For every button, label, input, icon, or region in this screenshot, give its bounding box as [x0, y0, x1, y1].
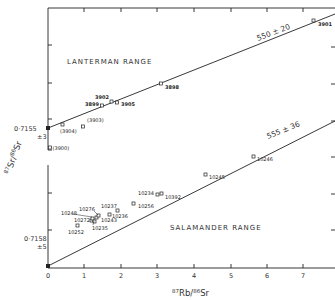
label-3901: 3901 — [318, 21, 332, 27]
point-10237 — [116, 209, 119, 212]
lanterman-intercept-marker — [46, 126, 50, 130]
salamander-intercept-value: 0·7158 — [24, 235, 47, 243]
salamander-isochron-line — [48, 121, 335, 266]
label-3899: 3899 — [85, 101, 99, 107]
label-10252: 10252 — [68, 229, 84, 235]
point-3903 — [82, 125, 85, 128]
x-tick-6: 6 — [265, 272, 269, 280]
x-tick-0: 0 — [46, 272, 50, 280]
x-tick-2: 2 — [119, 272, 123, 280]
x-tick-1: 1 — [82, 272, 86, 280]
label-3905: 3905 — [121, 101, 135, 107]
x-tick-7: 7 — [301, 272, 305, 280]
point-3899 — [101, 104, 104, 107]
y-axis-title: 87Sr/86Sr — [2, 139, 23, 175]
label-3902: 3902 — [95, 94, 109, 100]
point-10245 — [204, 173, 207, 176]
point-3905 — [116, 101, 119, 104]
point-3898 — [160, 82, 163, 85]
point-10256 — [132, 202, 135, 205]
x-tick-4: 4 — [192, 272, 196, 280]
label-10276: 10276 — [79, 206, 95, 212]
point-10246 — [252, 155, 255, 158]
label-10256: 10256 — [138, 203, 154, 209]
x-tick-3: 3 — [155, 272, 159, 280]
label-10237: 10237 — [101, 203, 117, 209]
label-3903: (3903) — [87, 117, 104, 123]
salamander-intercept-marker — [46, 264, 50, 268]
label-3904: (3904) — [60, 128, 77, 134]
lanterman-range-label: LANTERMAN RANGE — [67, 58, 152, 66]
point-3902 — [110, 100, 113, 103]
point-10236 — [108, 213, 111, 216]
label-3900: (3900) — [53, 145, 70, 151]
label-10245: 10245 — [209, 174, 225, 180]
label-10235: 10235 — [92, 225, 108, 231]
lanterman-intercept-error: ±3 — [37, 133, 47, 141]
isochron-chart: (3900) (3904) (3903) 3899 3902 3905 3898… — [0, 0, 335, 300]
label-10272: 10272 — [74, 217, 90, 223]
lanterman-age-label: 550 ± 20 — [255, 22, 291, 43]
label-3898: 3898 — [165, 84, 179, 90]
label-10392: 10392 — [165, 194, 181, 200]
x-tick-labels: 0 1 2 3 4 5 6 7 — [46, 272, 305, 280]
point-3900 — [49, 146, 52, 149]
label-10246: 10246 — [257, 156, 273, 162]
salamander-range-label: SALAMANDER RANGE — [170, 224, 262, 232]
x-axis-title: 87Rb/86Sr — [172, 288, 210, 298]
x-tick-5: 5 — [229, 272, 233, 280]
point-3904 — [61, 123, 64, 126]
point-10392 — [160, 192, 163, 195]
point-10234 — [156, 193, 159, 196]
label-10236: 10236 — [112, 213, 128, 219]
point-10252 — [76, 224, 79, 227]
lanterman-intercept-value: 0·7155 — [14, 125, 37, 133]
salamander-intercept-error: ±5 — [37, 243, 47, 251]
lanterman-isochron-line — [48, 14, 335, 128]
label-10248: 10248 — [61, 210, 77, 216]
point-10248 — [91, 217, 94, 220]
label-10234: 10234 — [138, 190, 154, 196]
salamander-age-label: 555 ± 36 — [265, 119, 301, 141]
point-3901 — [312, 19, 315, 22]
